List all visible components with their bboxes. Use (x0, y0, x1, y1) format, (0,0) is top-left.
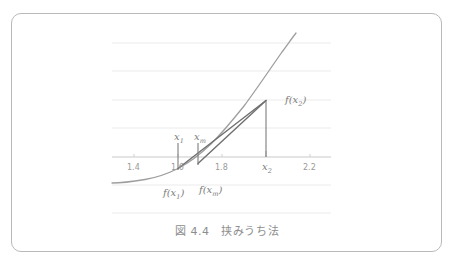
label-x1: x1 (174, 131, 184, 145)
label-x2: x2 (262, 161, 272, 175)
label-fx2-open: f(x (285, 94, 298, 105)
label-fx1-open: f(x (163, 187, 176, 198)
label-xm-sub: m (200, 137, 206, 145)
label-fx2: f(x2) (285, 94, 306, 108)
xtick-label-1-4: 1.4 (127, 163, 140, 172)
figure-page: 1.4 1.6 1.8 2.2 x1 xm x2 f(x1) f(xm) f(x… (0, 0, 454, 268)
figure-caption: 図 4.4 挟みうち法 (0, 222, 454, 238)
xtick-label-1-6: 1.6 (171, 163, 184, 172)
label-fx2-close: ) (302, 94, 306, 105)
label-xm: xm (194, 131, 206, 145)
chord-x1-x2 (178, 101, 266, 169)
label-x2-sub: 2 (268, 167, 272, 175)
label-fxm: f(xm) (199, 184, 222, 198)
label-fxm-close: ) (218, 184, 222, 195)
label-fxm-open: f(x (199, 184, 212, 195)
chord-xm-x2 (198, 101, 266, 164)
xtick-label-2-2: 2.2 (303, 163, 316, 172)
label-fx1-close: ) (180, 187, 184, 198)
label-fx1: f(x1) (163, 187, 184, 201)
x-axis-ticks (134, 151, 310, 157)
xtick-label-1-8: 1.8 (215, 163, 228, 172)
chord-lines (178, 101, 266, 169)
label-x1-sub: 1 (180, 137, 184, 145)
